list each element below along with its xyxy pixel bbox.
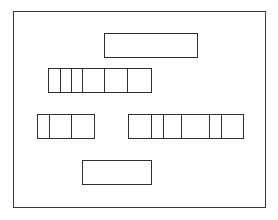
lower-left-segmented-box <box>37 114 95 139</box>
box-cell <box>164 115 182 138</box>
box-cell <box>50 115 72 138</box>
box-cell <box>129 115 152 138</box>
box-cell <box>105 69 128 92</box>
box-cell <box>152 115 164 138</box>
middle-segmented-box <box>48 68 152 93</box>
box-cell <box>105 34 197 57</box>
box-cell <box>72 69 83 92</box>
box-cell <box>210 115 222 138</box>
box-cell <box>61 69 72 92</box>
box-cell <box>182 115 210 138</box>
lower-right-segmented-box <box>128 114 244 139</box>
box-cell <box>128 69 151 92</box>
box-cell <box>49 69 61 92</box>
box-cell <box>38 115 50 138</box>
box-cell <box>72 115 94 138</box>
top-box <box>104 33 198 58</box>
box-cell <box>222 115 243 138</box>
bottom-box <box>82 160 152 185</box>
box-cell <box>83 69 105 92</box>
box-cell <box>83 161 151 184</box>
